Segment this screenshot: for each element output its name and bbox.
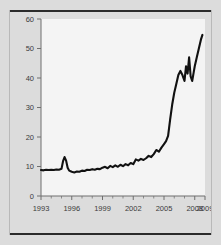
y-tick-label: 50 xyxy=(26,44,34,53)
y-tick-label: 0 xyxy=(30,192,34,201)
figure-container: 0102030405060 19931996199920022005200820… xyxy=(0,0,221,245)
x-tick-label: 1996 xyxy=(63,204,80,213)
y-tick-label: 60 xyxy=(26,15,34,24)
x-axis-ticks xyxy=(41,196,205,200)
x-tick-label: 2002 xyxy=(125,204,142,213)
x-tick-label: 1999 xyxy=(94,204,111,213)
plot-background xyxy=(41,19,205,196)
bottom-rule xyxy=(9,233,212,235)
right-page-edge xyxy=(211,10,212,235)
top-rule xyxy=(9,10,212,12)
x-axis-labels: 1993199619992002200520082009 xyxy=(33,204,211,213)
x-tick-label: 2009 xyxy=(197,204,211,213)
y-tick-label: 40 xyxy=(26,74,34,83)
x-tick-label: 2005 xyxy=(156,204,173,213)
y-tick-label: 20 xyxy=(26,133,34,142)
chart-svg: 0102030405060 19931996199920022005200820… xyxy=(10,13,211,232)
y-axis-labels: 0102030405060 xyxy=(26,15,34,201)
line-chart: 0102030405060 19931996199920022005200820… xyxy=(10,13,211,232)
x-tick-label: 1993 xyxy=(33,204,50,213)
y-tick-label: 30 xyxy=(26,103,34,112)
y-tick-label: 10 xyxy=(26,162,34,171)
